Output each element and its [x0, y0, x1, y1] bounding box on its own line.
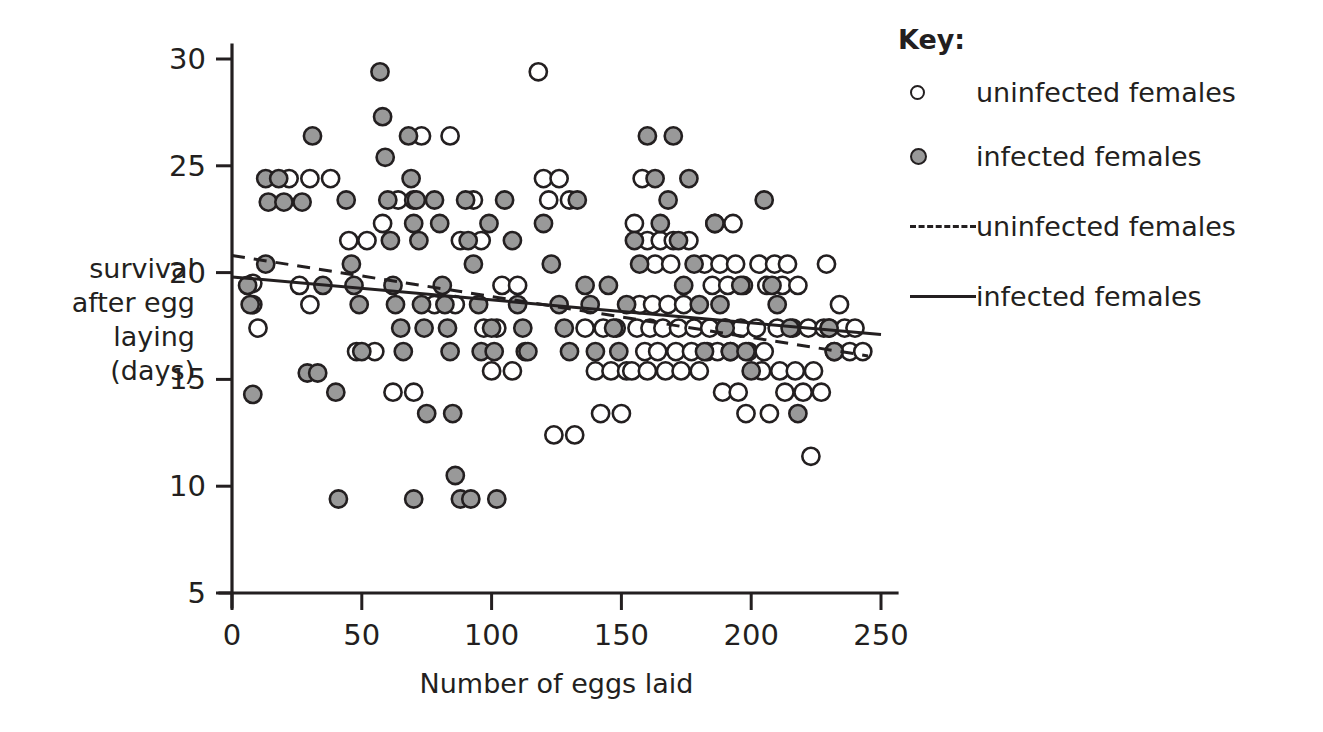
legend-item-infected-line: infected females	[898, 281, 1308, 311]
data-point-infected	[561, 343, 578, 360]
y-tick-label-5: 5	[188, 576, 206, 610]
data-point-infected	[711, 296, 728, 313]
x-tick-label-100: 100	[464, 618, 519, 652]
data-point-uninfected	[509, 277, 526, 294]
data-point-uninfected	[813, 384, 830, 401]
data-point-infected	[670, 232, 687, 249]
data-point-uninfected	[805, 362, 822, 379]
data-point-infected	[330, 490, 347, 507]
data-point-infected	[504, 232, 521, 249]
y-axis-title-line-2: laying	[113, 321, 195, 352]
data-point-uninfected	[818, 256, 835, 273]
data-point-uninfected	[756, 343, 773, 360]
data-point-infected	[309, 364, 326, 381]
filled-circle-marker-icon	[898, 148, 976, 165]
data-point-uninfected	[673, 362, 690, 379]
data-point-infected	[392, 320, 409, 337]
y-axis-title-line-0: survival	[89, 253, 195, 284]
data-point-infected	[680, 170, 697, 187]
data-point-infected	[789, 405, 806, 422]
y-tick-label-30: 30	[169, 42, 206, 76]
data-point-uninfected	[442, 127, 459, 144]
data-point-uninfected	[649, 343, 666, 360]
data-point-infected	[395, 343, 412, 360]
data-point-infected	[543, 256, 560, 273]
dashed-line-icon	[898, 225, 976, 228]
data-point-uninfected	[566, 426, 583, 443]
x-tick-label-150: 150	[594, 618, 649, 652]
data-point-infected	[826, 343, 843, 360]
data-point-infected	[371, 63, 388, 80]
data-point-infected	[444, 405, 461, 422]
data-point-uninfected	[374, 215, 391, 232]
data-point-infected	[327, 384, 344, 401]
solid-line-glyph	[910, 295, 976, 298]
data-point-infected	[605, 320, 622, 337]
data-point-infected	[610, 343, 627, 360]
data-point-infected	[556, 320, 573, 337]
data-point-infected	[535, 215, 552, 232]
legend-title: Key:	[898, 24, 1308, 55]
data-point-uninfected	[761, 405, 778, 422]
data-point-infected	[338, 191, 355, 208]
x-tick-label-250: 250	[853, 618, 908, 652]
data-point-uninfected	[831, 296, 848, 313]
data-point-infected	[405, 215, 422, 232]
data-point-infected	[244, 386, 261, 403]
data-point-infected	[374, 108, 391, 125]
y-tick-label-25: 25	[169, 149, 206, 183]
scatter-plot-figure: 51015202530050100150200250Number of eggs…	[0, 0, 1323, 732]
data-point-infected	[377, 149, 394, 166]
data-point-infected	[270, 170, 287, 187]
data-point-infected	[519, 343, 536, 360]
data-point-infected	[405, 490, 422, 507]
data-point-infected	[447, 467, 464, 484]
data-point-infected	[647, 170, 664, 187]
data-point-uninfected	[291, 277, 308, 294]
data-point-uninfected	[779, 256, 796, 273]
data-point-infected	[345, 277, 362, 294]
x-tick-label-0: 0	[223, 618, 241, 652]
data-point-infected	[413, 296, 430, 313]
data-point-infected	[763, 277, 780, 294]
data-point-uninfected	[405, 384, 422, 401]
data-point-infected	[660, 191, 677, 208]
data-point-infected	[686, 256, 703, 273]
legend-item-infected-marker: infected females	[898, 141, 1308, 171]
data-point-infected	[756, 191, 773, 208]
data-point-infected	[600, 277, 617, 294]
y-tick-label-10: 10	[169, 469, 206, 503]
data-point-infected	[577, 277, 594, 294]
data-point-uninfected	[730, 384, 747, 401]
data-point-uninfected	[802, 448, 819, 465]
data-point-uninfected	[724, 215, 741, 232]
data-point-infected	[462, 490, 479, 507]
data-point-uninfected	[789, 277, 806, 294]
data-point-uninfected	[530, 63, 547, 80]
y-axis-title-line-3: (days)	[110, 355, 195, 386]
data-point-infected	[732, 277, 749, 294]
data-point-infected	[769, 296, 786, 313]
data-point-infected	[587, 343, 604, 360]
data-point-infected	[434, 277, 451, 294]
data-point-infected	[737, 343, 754, 360]
data-point-infected	[410, 232, 427, 249]
data-point-infected	[387, 296, 404, 313]
data-point-infected	[696, 343, 713, 360]
data-point-infected	[488, 490, 505, 507]
dashed-line-glyph	[910, 225, 976, 228]
data-point-uninfected	[613, 405, 630, 422]
data-point-uninfected	[854, 343, 871, 360]
data-point-infected	[486, 343, 503, 360]
data-point-infected	[480, 215, 497, 232]
data-point-infected	[665, 127, 682, 144]
filled-circle-glyph	[910, 148, 927, 165]
data-point-infected	[400, 127, 417, 144]
data-point-infected	[257, 256, 274, 273]
data-point-uninfected	[787, 362, 804, 379]
data-point-uninfected	[577, 320, 594, 337]
data-point-uninfected	[737, 405, 754, 422]
data-point-infected	[304, 127, 321, 144]
data-point-infected	[418, 405, 435, 422]
data-point-infected	[496, 191, 513, 208]
